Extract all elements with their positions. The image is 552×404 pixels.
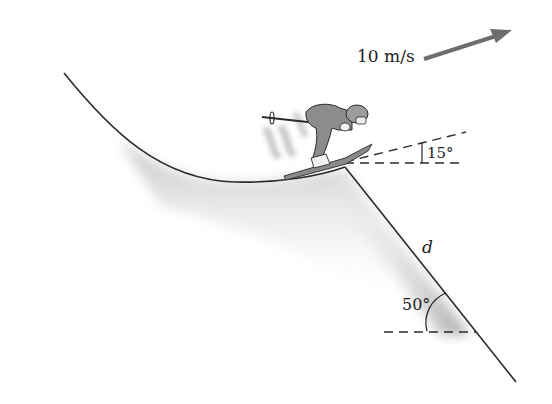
velocity-arrow [424, 29, 512, 59]
slope-angle-label: 50° [402, 295, 430, 314]
skier-icon [262, 104, 372, 180]
takeoff-angle-label: 15° [427, 144, 454, 162]
ski-jump-diagram: 10 m/s 15° d 50° [0, 0, 552, 404]
distance-label: d [422, 237, 433, 257]
velocity-label: 10 m/s [357, 46, 415, 66]
